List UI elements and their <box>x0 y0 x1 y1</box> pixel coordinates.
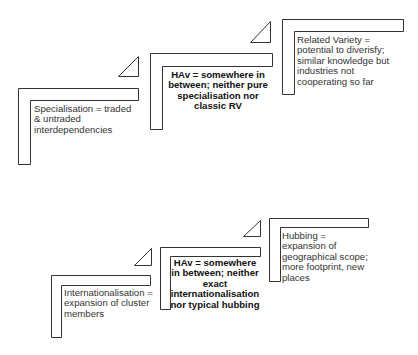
arrow-triangle-3 <box>135 249 152 266</box>
step-label-hav-top: HAv = somewhere in between; neither pure… <box>163 70 273 112</box>
arrow-triangle-4 <box>244 221 261 237</box>
step-label-internationalisation: Internationalisation = expansion of clus… <box>64 288 164 319</box>
arrow-triangle-2 <box>251 22 271 43</box>
step-label-hubbing: Hubbing = expansion of geographical scop… <box>282 231 382 283</box>
arrow-triangle-1 <box>119 57 139 77</box>
step-label-related-variety: Related Variety = potential to diverisfy… <box>297 35 409 87</box>
step-label-hav-bottom: HAv = somewhere in between; neither exac… <box>168 258 262 310</box>
step-label-specialisation: Specialisation = traded & untraded inter… <box>34 104 144 135</box>
